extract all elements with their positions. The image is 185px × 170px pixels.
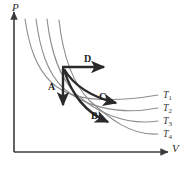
process-label-a: A xyxy=(48,82,55,92)
isotherm-label-t3: T3 xyxy=(163,116,172,128)
isotherm-label-t1: T1 xyxy=(163,90,172,102)
process-label-d: D xyxy=(84,54,91,64)
process-label-b: B xyxy=(91,111,98,121)
axes xyxy=(14,12,168,152)
pv-diagram-figure: P V A B C D T1 T2 T3 T4 xyxy=(0,0,185,170)
process-label-c: C xyxy=(99,92,106,102)
isotherm-curve-t4 xyxy=(59,20,158,134)
process-arrows xyxy=(62,67,116,122)
isotherm-label-t2: T2 xyxy=(163,103,172,115)
diagram-canvas xyxy=(0,0,185,170)
x-axis-label: V xyxy=(172,143,179,154)
y-axis-label: P xyxy=(12,2,19,13)
isotherm-label-t4: T4 xyxy=(163,129,172,141)
